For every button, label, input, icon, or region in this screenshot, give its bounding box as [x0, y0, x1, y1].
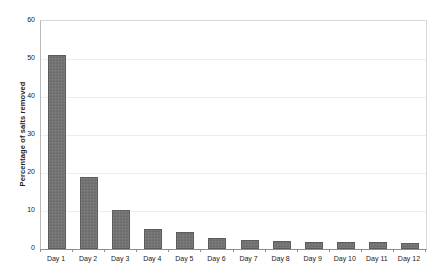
x-tick-label: Day 7	[239, 254, 257, 263]
bar-slot	[137, 21, 169, 249]
x-tick-label: Day 8	[271, 254, 289, 263]
bar-slot	[105, 21, 137, 249]
x-tick-mark	[361, 249, 362, 252]
x-tick-mark	[72, 249, 73, 252]
bar	[48, 55, 66, 249]
bar-chart-figure: Percentage of salts removed 010203040506…	[0, 0, 441, 280]
bar-slot	[298, 21, 330, 249]
x-tick-mark	[168, 249, 169, 252]
bar	[273, 241, 291, 249]
bar	[144, 229, 162, 249]
bar-slot	[394, 21, 426, 249]
y-tick-label: 20	[20, 168, 38, 176]
bar	[112, 210, 130, 249]
x-tick-mark	[425, 249, 426, 252]
bar	[337, 242, 355, 249]
bar-slot	[234, 21, 266, 249]
bar-slot	[169, 21, 201, 249]
x-tick-mark	[104, 249, 105, 252]
bar	[241, 240, 259, 249]
y-tick-label: 10	[20, 206, 38, 214]
x-tick-mark	[200, 249, 201, 252]
x-tick-label: Day 9	[304, 254, 322, 263]
x-tick-label: Day 5	[175, 254, 193, 263]
bar-slot	[266, 21, 298, 249]
bar	[176, 232, 194, 249]
x-tick-mark	[233, 249, 234, 252]
y-tick-label: 40	[20, 92, 38, 100]
bar	[305, 242, 323, 249]
bar-slot	[73, 21, 105, 249]
bar	[208, 238, 226, 249]
x-tick-label: Day 12	[398, 254, 420, 263]
plot-area	[40, 20, 427, 250]
x-tick-mark	[329, 249, 330, 252]
bar	[80, 177, 98, 249]
x-tick-label: Day 11	[366, 254, 388, 263]
x-tick-mark	[297, 249, 298, 252]
bar-slot	[41, 21, 73, 249]
x-tick-label: Day 4	[143, 254, 161, 263]
x-tick-mark	[265, 249, 266, 252]
bars-group	[41, 21, 426, 249]
bar	[369, 242, 387, 249]
x-tick-mark	[40, 249, 41, 252]
bar-slot	[201, 21, 233, 249]
x-tick-label: Day 10	[334, 254, 356, 263]
bar-slot	[362, 21, 394, 249]
x-tick-label: Day 6	[207, 254, 225, 263]
y-tick-label: 0	[20, 244, 38, 252]
y-tick-label: 50	[20, 54, 38, 62]
x-tick-mark	[393, 249, 394, 252]
x-axis-tick-labels: Day 1Day 2Day 3Day 4Day 5Day 6Day 7Day 8…	[40, 249, 425, 279]
y-axis-tick-labels: 0102030405060	[20, 0, 38, 280]
x-tick-label: Day 1	[47, 254, 65, 263]
y-tick-label: 30	[20, 130, 38, 138]
x-tick-label: Day 3	[111, 254, 129, 263]
y-tick-label: 60	[20, 16, 38, 24]
x-tick-mark	[136, 249, 137, 252]
x-tick-label: Day 2	[79, 254, 97, 263]
bar-slot	[330, 21, 362, 249]
